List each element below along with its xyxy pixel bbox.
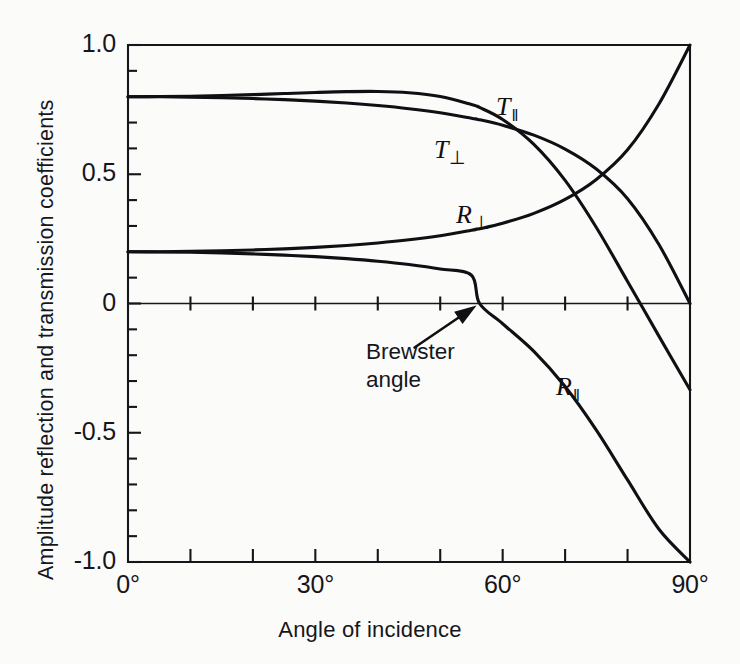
curve-T_perpendicular (128, 97, 690, 304)
x-tick-label: 0° (88, 570, 168, 599)
curve-label-subscript: ⊥ (472, 212, 490, 233)
curve-label-base: R (556, 372, 572, 401)
y-axis-title: Amplitude reflection and transmission co… (34, 100, 59, 580)
curve-label-subscript: ‖ (572, 386, 579, 405)
curve-label-R-perp: R⊥ (456, 200, 490, 234)
x-axis-title: Angle of incidence (0, 617, 740, 643)
curve-label-base: R (456, 200, 472, 229)
curve-label-subscript: ⊥ (448, 147, 466, 168)
curve-R_parallel (128, 252, 690, 562)
curve-label-R-par: R‖ (556, 372, 579, 406)
curve-R_perpendicular (128, 45, 690, 252)
y-tick-label: 1.0 (32, 29, 116, 58)
x-tick-label: 90° (650, 570, 730, 599)
x-tick-label: 30° (275, 570, 355, 599)
brewster-angle-annotation: Brewster angle (366, 338, 455, 394)
figure-canvas: 1.00.50-0.5-1.0 0°30°60°90° T‖T⊥R⊥R‖ Bre… (0, 0, 740, 664)
x-tick-label: 60° (463, 570, 543, 599)
curve-label-base: T (496, 92, 510, 121)
curve-label-subscript: ‖ (510, 106, 517, 125)
curve-label-base: T (434, 135, 448, 164)
curve-label-T-par: T‖ (496, 92, 518, 126)
curve-label-T-perp: T⊥ (434, 135, 466, 169)
